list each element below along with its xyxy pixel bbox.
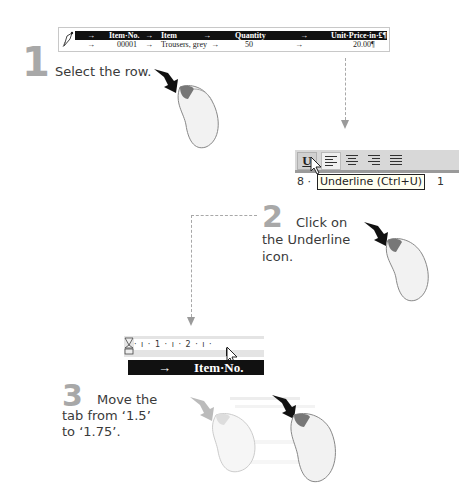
table-row[interactable]: → 00001 → Trousers, grey → 50 → 20.00¶: [75, 40, 387, 49]
tab-mark: →: [203, 31, 211, 40]
align-right-icon: [368, 153, 380, 167]
header-item-no: Item·No.: [109, 31, 139, 40]
connector-line: [345, 58, 346, 120]
row-selection-cursor-icon: [61, 30, 75, 48]
mouse-click-illustration: [362, 218, 442, 308]
header-quantity: Quantity: [235, 31, 266, 40]
step3-instruction-line3: to ‘1.75’.: [62, 424, 121, 440]
pointer-arrow-icon: [154, 69, 178, 93]
word-table-snippet: → Item·No. → Item → Quantity → Unit·Pric…: [58, 27, 390, 52]
align-left-icon: [325, 154, 337, 168]
step2-instruction-line1: Click on: [296, 215, 347, 231]
step3-instruction-line2: tab from ‘1.5’: [62, 408, 151, 424]
connector-line: [191, 215, 257, 216]
align-center-button[interactable]: [343, 152, 361, 168]
mouse-click-illustration: [150, 65, 230, 155]
justify-icon: [390, 153, 402, 167]
align-left-button[interactable]: [321, 152, 341, 170]
header-item: Item: [161, 31, 177, 40]
tab-mark: →: [295, 40, 303, 49]
mouse-pointer-icon: [310, 156, 324, 176]
step3-instruction-line1: Move the: [97, 392, 157, 408]
step1-instruction: Select the row.: [55, 64, 151, 80]
align-center-icon: [346, 153, 358, 167]
connector-arrow-icon: [341, 120, 349, 129]
header-item-no: Item·No.: [194, 360, 243, 375]
tab-mark: →: [87, 40, 95, 49]
mouse-drag-illustration: [190, 395, 360, 500]
header-unit-price: Unit·Price·in·£¶: [331, 31, 387, 40]
tab-mark: →: [300, 31, 308, 40]
pointer-arrow-icon: [364, 222, 388, 246]
ruler-scale: · ı · 1 · ı · 2 · ı ·: [134, 339, 264, 350]
ruler-mark: 8 ·: [297, 175, 311, 188]
tab-mark: →: [145, 40, 153, 49]
step-number-1: 1: [22, 42, 50, 82]
ruler-mark: 1: [437, 175, 444, 188]
connector-arrow-icon: [187, 317, 195, 326]
ruler-with-tooltip: 8 · Underline (Ctrl+U) 1: [295, 174, 459, 190]
cell-item-no: 00001: [117, 40, 137, 49]
step2-instruction-line2: the Underline: [262, 232, 350, 248]
indent-marker-icon[interactable]: [124, 337, 134, 355]
step-number-2: 2: [262, 202, 283, 232]
header-cell-bar: → Item·No.: [128, 360, 264, 375]
connector-line: [191, 215, 192, 317]
tab-mark: →: [145, 31, 153, 40]
align-right-button[interactable]: [365, 152, 383, 168]
ruler[interactable]: · ı · 1 · ı · 2 · ı ·: [124, 336, 264, 357]
justify-button[interactable]: [387, 152, 405, 168]
underline-tooltip: Underline (Ctrl+U): [317, 174, 425, 190]
tab-mark: →: [211, 40, 219, 49]
cell-unit-price: 20.00¶: [353, 40, 375, 49]
tab-mark: →: [87, 31, 95, 40]
step-number-3: 3: [62, 381, 83, 411]
table-header-row[interactable]: → Item·No. → Item → Quantity → Unit·Pric…: [75, 31, 387, 40]
pointer-arrow-icon: [190, 397, 214, 421]
tab-mark: →: [158, 360, 171, 375]
cell-quantity: 50: [245, 40, 253, 49]
cell-item: Trousers, grey: [161, 40, 207, 49]
step2-instruction-line3: icon.: [262, 249, 293, 265]
